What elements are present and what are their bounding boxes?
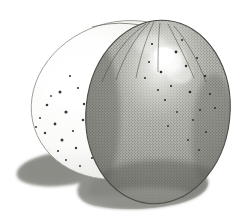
egg-drawing-svg <box>0 0 244 224</box>
egg-drawing-canvas: A pencil stipple drawing of two eggs, a … <box>0 0 244 224</box>
